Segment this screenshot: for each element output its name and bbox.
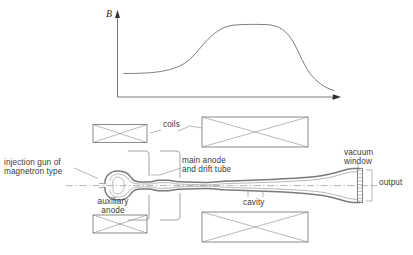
- plot-x-axis-label: z: [332, 92, 335, 101]
- plot-y-axis-label: B: [106, 8, 112, 19]
- coil-top-left: [93, 125, 147, 143]
- label-auxiliary-anode: auxiliary anode: [89, 197, 137, 216]
- figure-svg: [0, 0, 413, 255]
- label-cavity: cavity: [243, 198, 265, 207]
- label-main-anode-and-drift-tube: main anode and drift tube: [182, 156, 231, 175]
- coil-bottom-right: [202, 212, 308, 242]
- label-output: output: [379, 178, 402, 187]
- label-vacuum-window: vacuum window: [344, 148, 373, 167]
- plot-curve-bz: [124, 24, 334, 90]
- label-injection-gun: injection gun of magnetron type: [4, 158, 62, 177]
- label-coils: coils: [163, 120, 180, 129]
- coil-top-right: [202, 117, 308, 147]
- coil-bottom-left: [93, 215, 147, 233]
- plot-axes: [115, 10, 341, 100]
- figure-root: B z coils injection gun of magnetron typ…: [0, 0, 413, 255]
